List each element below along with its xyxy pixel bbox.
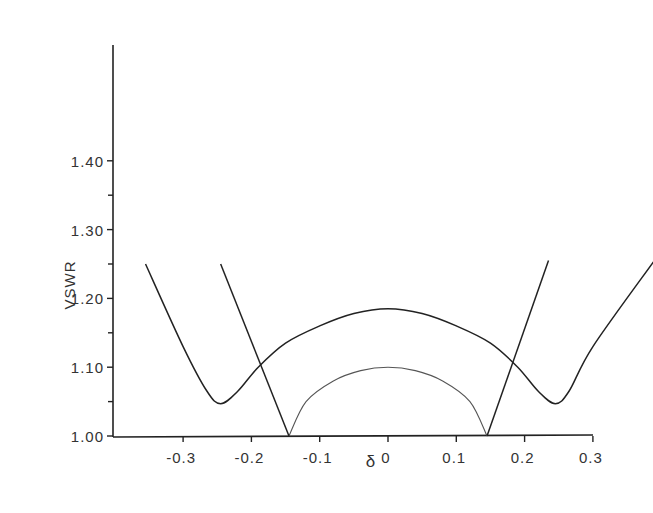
x-tick-labels: -0.3-0.2-0.100.10.20.3 [166, 449, 603, 466]
y-tick-label: 1.10 [71, 359, 104, 376]
x-tick-label: 0.1 [442, 449, 466, 466]
x-tick-label: 0.2 [511, 449, 535, 466]
axes [113, 45, 593, 437]
x-tick-label: -0.1 [303, 449, 333, 466]
x-tick-label: 0 [381, 449, 390, 466]
data-series [146, 261, 653, 436]
y-tick-label: 1.00 [71, 428, 104, 445]
y-axis-label: VSWR [61, 261, 78, 310]
y-tick-label: 1.30 [71, 222, 104, 239]
y-ticks [107, 161, 113, 436]
x-tick-label: -0.2 [234, 449, 264, 466]
x-axis-label: δ [366, 452, 376, 471]
series-line [221, 264, 289, 436]
series-line [289, 367, 487, 436]
x-axis [113, 435, 593, 437]
vswr-chart: 1.001.101.201.301.40 -0.3-0.2-0.100.10.2… [0, 0, 653, 513]
series-line [146, 261, 653, 404]
x-tick-label: -0.3 [166, 449, 196, 466]
x-tick-label: 0.3 [579, 449, 603, 466]
y-tick-label: 1.40 [71, 153, 104, 170]
